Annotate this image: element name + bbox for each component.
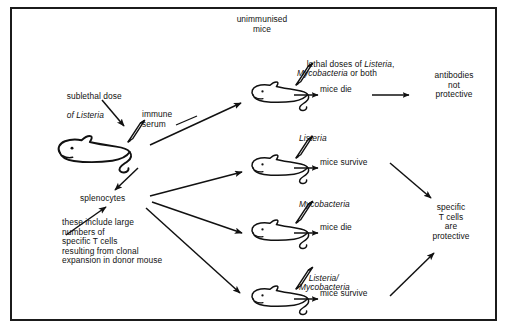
outcome-label-3: mice die	[320, 223, 372, 233]
challenge-1-plain: lethal doses of	[307, 59, 365, 69]
diagram-canvas: unimmunised mice sublethal dose of Liste…	[0, 0, 508, 333]
challenge-4-italic-1: Listeria/	[309, 273, 339, 283]
challenge-label-2: Listeria	[299, 134, 369, 144]
tcell-conclusion-arrow-bottom	[390, 253, 434, 296]
recipient-mouse-2	[252, 155, 309, 183]
tcell-conclusion-arrow-top	[390, 163, 431, 198]
sublethal-dose-label: sublethal dose of Listeria	[57, 82, 147, 130]
outcome-label-2: mice survive	[320, 158, 382, 168]
challenge-label-3: Mycobacteria	[299, 200, 379, 210]
antibodies-conclusion: antibodies not protective	[414, 71, 494, 100]
donor-mouse-illustration	[59, 136, 131, 172]
outcome-label-4: mice survive	[320, 289, 382, 299]
splenocytes-label: splenocytes	[80, 194, 150, 204]
outcome-label-1: mice die	[320, 85, 372, 95]
tcells-conclusion: specific T cells are protective	[414, 203, 488, 241]
sublethal-dose-line1: sublethal dose	[67, 91, 122, 101]
splenocyte-arrow-1	[150, 172, 242, 196]
challenge-1-italic-2: Mycobacteria	[297, 68, 348, 78]
challenge-1-comma: ,	[392, 59, 394, 69]
figure-title: unimmunised mice	[212, 15, 312, 34]
challenge-1-italic-1: Listeria	[364, 59, 392, 69]
immune-serum-label: immune serum	[142, 110, 202, 129]
sublethal-dose-line2: of Listeria	[67, 110, 104, 120]
recipient-mouse-3	[252, 220, 309, 248]
challenge-1-tail: or both	[348, 68, 377, 78]
splenocytes-note: these include large numbers of specific …	[62, 218, 202, 266]
